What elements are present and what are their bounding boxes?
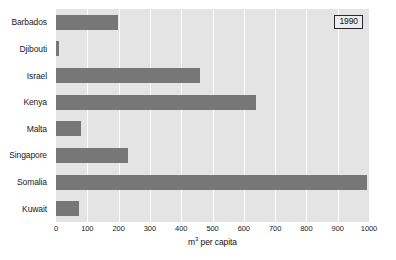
x-tick-label-800: 800: [300, 224, 312, 233]
x-axis-title-unit: m: [188, 237, 195, 247]
bar-israel[interactable]: [56, 68, 200, 83]
x-tick-label-300: 300: [144, 224, 156, 233]
bar-barbados[interactable]: [56, 15, 118, 30]
x-tick-label-200: 200: [112, 224, 124, 233]
category-label-kenya: Kenya: [0, 89, 52, 116]
bar-row-barbados: [56, 9, 369, 36]
x-tick-label-0: 0: [54, 224, 58, 233]
x-axis-ticks: 01002003004005006007008009001000: [56, 224, 369, 238]
category-label-kuwait: Kuwait: [0, 195, 52, 222]
bar-row-kenya: [56, 89, 369, 116]
x-axis-title: m3 per capita: [56, 237, 369, 247]
category-label-somalia: Somalia: [0, 169, 52, 196]
bar-row-malta: [56, 116, 369, 143]
bar-kuwait[interactable]: [56, 201, 79, 216]
x-tick-label-100: 100: [81, 224, 93, 233]
x-tick-label-700: 700: [269, 224, 281, 233]
bar-djibouti[interactable]: [56, 41, 59, 56]
category-label-israel: Israel: [0, 62, 52, 89]
plot-area: 1990: [56, 9, 369, 222]
legend-year-badge: 1990: [334, 15, 363, 29]
category-label-malta: Malta: [0, 116, 52, 143]
x-tick-label-900: 900: [332, 224, 344, 233]
x-tick-label-500: 500: [206, 224, 218, 233]
category-label-barbados: Barbados: [0, 9, 52, 36]
bar-row-israel: [56, 62, 369, 89]
category-label-djibouti: Djibouti: [0, 36, 52, 63]
bar-kenya[interactable]: [56, 95, 256, 110]
bar-somalia[interactable]: [56, 175, 367, 190]
x-axis-title-suffix: per capita: [198, 237, 237, 247]
bar-row-kuwait: [56, 195, 369, 222]
category-label-singapore: Singapore: [0, 142, 52, 169]
x-tick-label-1000: 1000: [361, 224, 377, 233]
x-tick-label-400: 400: [175, 224, 187, 233]
bar-chart: Barbados Djibouti Israel Kenya Malta Sin…: [0, 0, 396, 260]
bar-malta[interactable]: [56, 121, 81, 136]
x-tick-label-600: 600: [238, 224, 250, 233]
bar-row-somalia: [56, 169, 369, 196]
bar-row-djibouti: [56, 36, 369, 63]
y-axis-category-labels: Barbados Djibouti Israel Kenya Malta Sin…: [0, 9, 52, 222]
bars-layer: [56, 9, 369, 222]
bar-row-singapore: [56, 142, 369, 169]
bar-singapore[interactable]: [56, 148, 128, 163]
legend-label: 1990: [339, 16, 358, 26]
